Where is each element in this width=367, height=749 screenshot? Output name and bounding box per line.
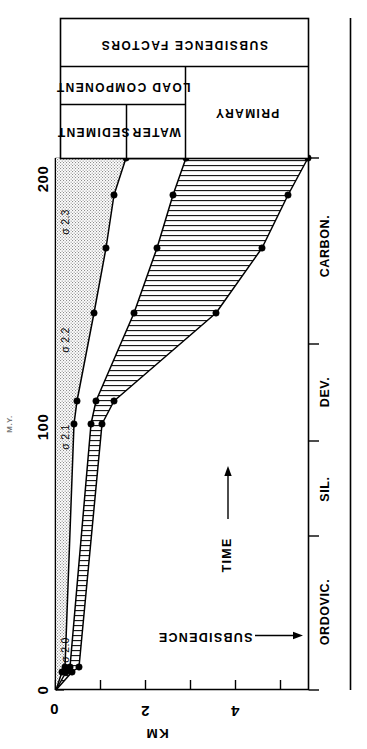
km-tick-label-2: 2	[141, 703, 150, 720]
period-label-devonian: DEV.	[318, 377, 332, 407]
time-axis-title: M.Y.	[5, 415, 14, 433]
sigma-label-2-3: σ 2.3	[59, 209, 71, 235]
legend-item-label-primary: PRIMARY	[215, 106, 280, 120]
subsidence-arrowhead	[293, 632, 303, 639]
subsidence-annotation-label: SUBSIDENCE	[158, 630, 253, 644]
legend: SUBSIDENCE FACTORS LOAD COMPONENT SEDIME…	[56, 19, 309, 159]
period-axis-labels: ORDOVIC. SIL. DEV. CARBON.	[318, 215, 332, 646]
time-annotation-label: TIME	[220, 537, 234, 572]
period-label-silurian: SIL.	[318, 476, 332, 501]
period-label-ordovician: ORDOVIC.	[318, 579, 332, 646]
time-tick-label-200: 200	[34, 166, 51, 193]
time-arrowhead	[224, 466, 231, 476]
km-axis-tick-labels: 0 2 4	[50, 701, 240, 720]
period-label-carboniferous: CARBON.	[318, 215, 332, 278]
legend-header-label: SUBSIDENCE FACTORS	[100, 38, 268, 52]
time-tick-label-100: 100	[34, 414, 51, 441]
subsidence-figure: 0 100 200 M.Y. 0 2 4 KM	[0, 0, 367, 749]
time-axis-tick-labels: 0 100 200	[34, 166, 51, 695]
legend-group-label: LOAD COMPONENT	[56, 80, 191, 94]
km-tick-label-0: 0	[50, 701, 59, 718]
km-axis-title: KM	[145, 726, 168, 741]
legend-item-label-water: WATER	[131, 125, 180, 139]
km-axis-ticks	[56, 680, 281, 690]
time-tick-label-0: 0	[34, 686, 51, 695]
sigma-label-2-2: σ 2.2	[59, 327, 71, 353]
sigma-label-2-0: σ 2.0	[59, 637, 71, 663]
legend-item-label-sediment: SEDIMENT	[56, 125, 129, 139]
subsidence-annotation: SUBSIDENCE	[158, 630, 303, 644]
km-tick-label-4: 4	[230, 703, 239, 720]
chart-svg: 0 100 200 M.Y. 0 2 4 KM	[0, 0, 367, 749]
sigma-label-2-1: σ 2.1	[59, 424, 71, 450]
time-annotation: TIME	[220, 466, 234, 573]
